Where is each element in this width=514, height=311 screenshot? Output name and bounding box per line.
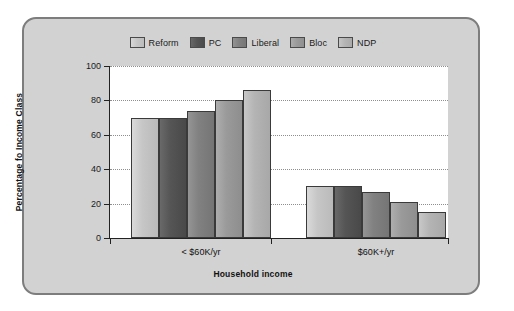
y-tick-mark — [104, 204, 109, 205]
y-tick-label: 60 — [91, 130, 101, 140]
bar — [306, 186, 334, 238]
legend-label: Bloc — [309, 38, 327, 48]
bar — [362, 192, 390, 238]
legend-label: Liberal — [251, 38, 279, 48]
chart-figure: ReformPCLiberalBlocNDP Percentage fo Inc… — [0, 0, 514, 311]
legend-item-liberal[interactable]: Liberal — [232, 37, 279, 48]
bar — [243, 90, 271, 238]
bar — [187, 111, 215, 238]
bar — [159, 118, 187, 238]
legend-label: NDP — [357, 38, 376, 48]
legend-label: Reform — [149, 38, 179, 48]
x-axis-title: Household income — [24, 269, 482, 279]
gridline — [110, 66, 448, 67]
x-category-label: $60K+/yr — [358, 247, 394, 257]
plot-area — [110, 66, 448, 238]
x-category-label: < $60K/yr — [182, 247, 221, 257]
legend-swatch-icon — [290, 37, 305, 48]
y-tick-label: 40 — [91, 164, 101, 174]
y-tick-mark — [104, 135, 109, 136]
x-axis — [109, 238, 448, 239]
legend-label: PC — [209, 38, 222, 48]
y-tick-mark — [104, 238, 109, 239]
legend-item-pc[interactable]: PC — [190, 37, 222, 48]
bar — [334, 186, 362, 238]
legend-swatch-icon — [338, 37, 353, 48]
y-tick-label: 20 — [91, 199, 101, 209]
legend-item-bloc[interactable]: Bloc — [290, 37, 327, 48]
chart-panel: ReformPCLiberalBlocNDP Percentage fo Inc… — [22, 17, 480, 295]
legend-swatch-icon — [232, 37, 247, 48]
y-tick-label: 100 — [86, 61, 101, 71]
x-tick-mark — [448, 238, 449, 244]
x-tick-mark — [271, 238, 272, 244]
y-axis — [109, 66, 110, 238]
legend-swatch-icon — [190, 37, 205, 48]
y-tick-mark — [104, 100, 109, 101]
legend-swatch-icon — [130, 37, 145, 48]
bar — [131, 118, 159, 238]
y-tick-mark — [104, 169, 109, 170]
chart-legend: ReformPCLiberalBlocNDP — [24, 37, 482, 48]
legend-item-reform[interactable]: Reform — [130, 37, 179, 48]
y-tick-label: 0 — [96, 233, 101, 243]
bar — [418, 212, 446, 238]
y-tick-mark — [104, 66, 109, 67]
y-axis-title: Percentage fo Income Class — [12, 66, 26, 238]
legend-item-ndp[interactable]: NDP — [338, 37, 376, 48]
bar — [390, 202, 418, 238]
x-tick-mark — [110, 238, 111, 244]
bar — [215, 100, 243, 238]
gridline — [110, 100, 448, 101]
y-tick-label: 80 — [91, 95, 101, 105]
